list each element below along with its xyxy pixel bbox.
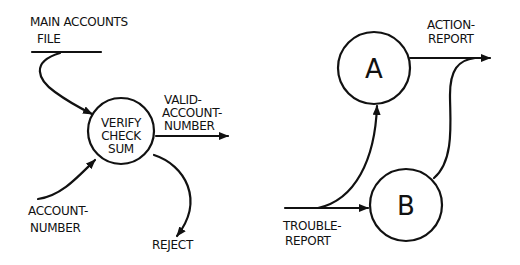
verify-check-sum-process: VERIFY CHECK SUM xyxy=(88,98,154,164)
flow-trouble-report-to-a xyxy=(318,106,377,208)
main-accounts-file-store: MAIN ACCOUNTS FILE xyxy=(30,15,128,52)
valid-account-number-label: VALID- ACCOUNT- NUMBER xyxy=(162,93,222,133)
process-a-label: A xyxy=(365,54,383,84)
process-b: B xyxy=(370,169,442,241)
process-label-line2: CHECK xyxy=(101,129,142,143)
valid-label-line1: VALID- xyxy=(164,93,202,107)
process-b-label: B xyxy=(397,191,415,221)
flow-reject xyxy=(154,155,190,236)
valid-label-line2: ACCOUNT- xyxy=(162,106,222,120)
store-label-line1: MAIN ACCOUNTS xyxy=(30,15,128,29)
account-number-label-line1: ACCOUNT- xyxy=(28,204,88,218)
reject-label: REJECT xyxy=(152,238,194,252)
action-report-label-line2: REPORT xyxy=(428,32,475,46)
action-report-label-line1: ACTION- xyxy=(427,18,475,32)
process-a: A xyxy=(338,32,410,104)
process-label-line1: VERIFY xyxy=(101,116,142,130)
store-label-line2: FILE xyxy=(37,32,61,46)
account-number-label-line2: NUMBER xyxy=(30,221,80,235)
process-label-line3: SUM xyxy=(108,142,134,156)
trouble-report-label-line2: REPORT xyxy=(285,234,332,248)
flow-account-number-input xyxy=(38,160,95,199)
trouble-report-label-line1: TROUBLE- xyxy=(282,219,341,233)
flow-store-to-verify xyxy=(40,53,92,114)
flow-b-to-action-report xyxy=(434,58,475,178)
dataflow-diagram: MAIN ACCOUNTS FILE VERIFY CHECK SUM VALI… xyxy=(0,0,520,265)
valid-label-line3: NUMBER xyxy=(164,119,214,133)
